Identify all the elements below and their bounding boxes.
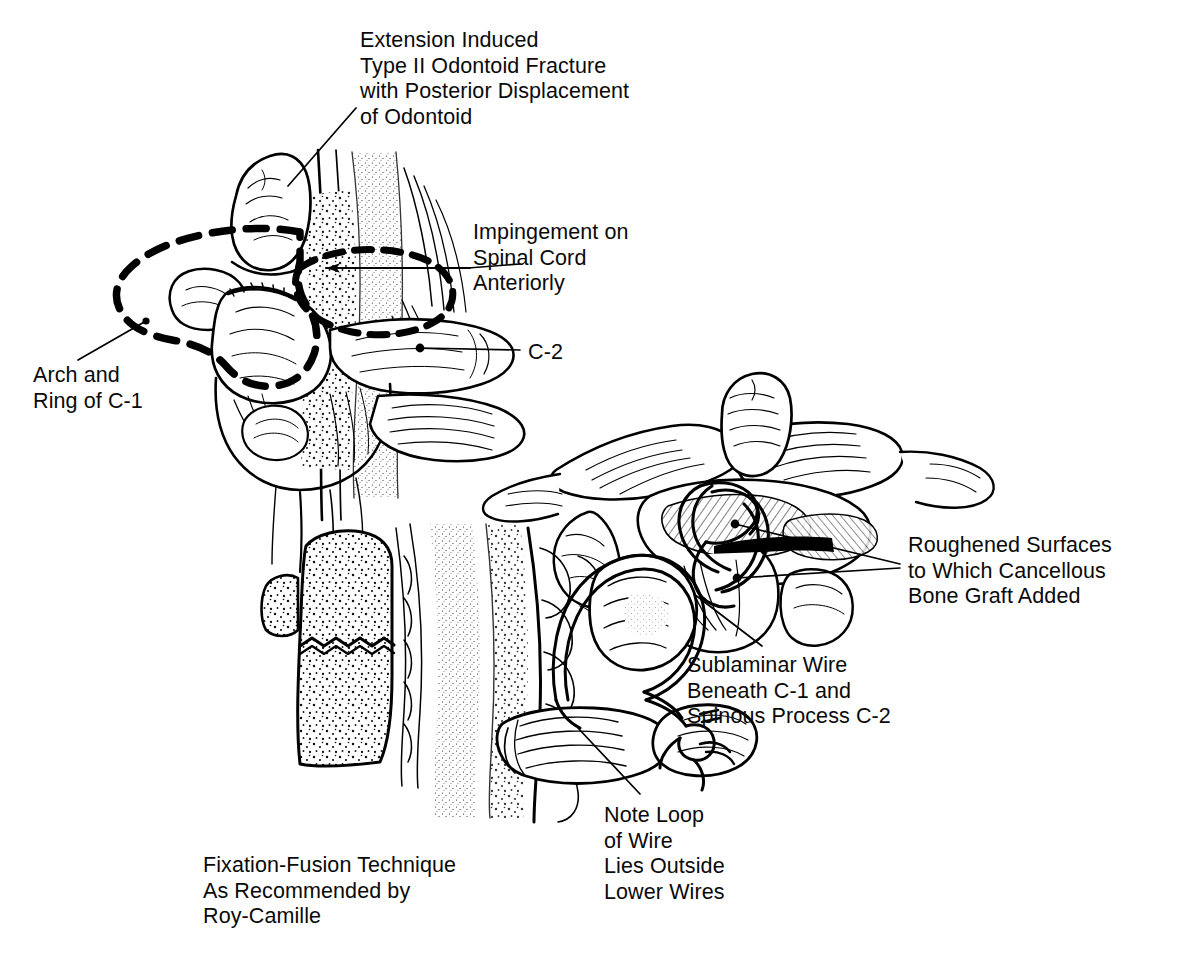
leader-title <box>288 108 356 186</box>
label-fixation-technique: Fixation-Fusion Technique As Recommended… <box>203 853 456 930</box>
illustration-canvas: Extension Induced Type II Odontoid Fract… <box>0 0 1181 955</box>
label-impingement: Impingement on Spinal Cord Anteriorly <box>473 220 629 297</box>
label-sublaminar-wire: Sublaminar Wire Beneath C-1 and Spinous … <box>687 653 891 730</box>
panel-lateral-c1-c2 <box>116 150 524 572</box>
label-note-loop-of-wire: Note Loop of Wire Lies Outside Lower Wir… <box>604 803 725 905</box>
label-c2: C-2 <box>528 340 563 366</box>
label-title: Extension Induced Type II Odontoid Fract… <box>360 28 629 130</box>
anatomical-artwork <box>0 0 1181 955</box>
label-roughened-surfaces: Roughened Surfaces to Which Cancellous B… <box>908 533 1112 610</box>
leader-arch-ring <box>78 321 146 360</box>
label-arch-ring-c1: Arch and Ring of C-1 <box>33 363 143 414</box>
panel-sagittal-graft <box>262 524 757 822</box>
